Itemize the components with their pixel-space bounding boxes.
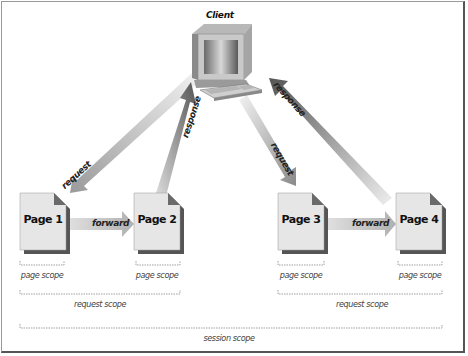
page-1-label: Page 1 <box>20 213 66 226</box>
page-4-label: Page 4 <box>396 213 442 226</box>
forward-label-1: forward <box>92 218 129 228</box>
page-scope-bracket-1 <box>20 261 64 265</box>
page-3-label: Page 3 <box>278 213 324 226</box>
request-scope-label-1: request scope <box>74 299 126 309</box>
client-label: Client <box>206 10 234 20</box>
page-scope-bracket-3 <box>278 261 324 265</box>
page-scope-bracket-4 <box>398 261 442 265</box>
page-2-label: Page 2 <box>134 213 180 226</box>
page-scope-label-1: page scope <box>21 270 64 280</box>
page-4: Page 4 <box>396 193 442 250</box>
page-scope-label-3: page scope <box>280 270 323 280</box>
forward-label-2: forward <box>352 218 389 228</box>
computer-icon <box>192 24 262 101</box>
page-2: Page 2 <box>134 193 180 250</box>
page-1: Page 1 <box>20 193 66 250</box>
request-scope-bracket-2 <box>278 290 442 294</box>
page-scope-label-4: page scope <box>399 270 442 280</box>
page-scope-bracket-2 <box>136 261 180 265</box>
page-3: Page 3 <box>278 193 324 250</box>
request-scope-label-2: request scope <box>336 299 388 309</box>
request-scope-bracket-1 <box>20 290 180 294</box>
session-scope-bracket <box>20 324 442 328</box>
session-scope-label: session scope <box>203 333 254 343</box>
page-scope-label-2: page scope <box>136 270 179 280</box>
